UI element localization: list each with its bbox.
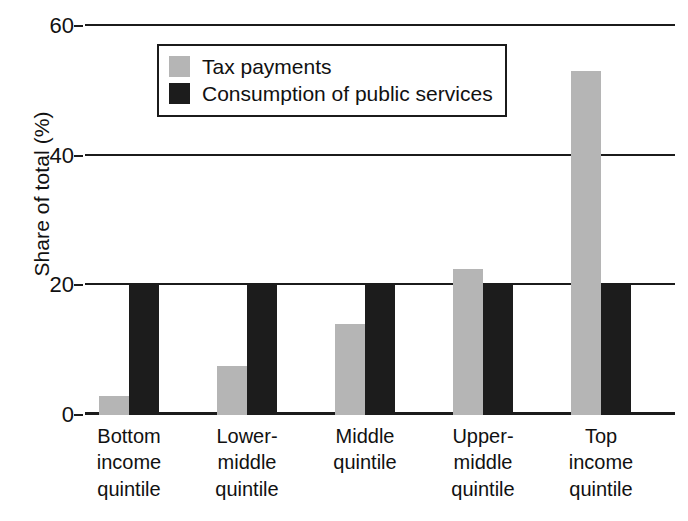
legend-item-label: Consumption of public services	[202, 83, 493, 104]
bar-tax-payments-2	[335, 324, 365, 415]
legend-item-label: Tax payments	[202, 56, 332, 77]
x-axis-label-4: Topincomequintile	[526, 423, 676, 502]
bar-tax-payments-0	[99, 396, 129, 415]
black-swatch	[169, 83, 190, 104]
bar-tax-payments-3	[453, 269, 483, 415]
x-axis-label-line: income	[526, 449, 676, 475]
bar-consumption-4	[601, 285, 631, 415]
y-tick-mark-20	[74, 284, 83, 286]
legend-item-0: Tax payments	[169, 53, 493, 80]
y-tick-mark-60	[74, 25, 83, 27]
y-tick-label-20: 20	[50, 274, 74, 296]
gray-swatch	[169, 56, 190, 77]
bar-consumption-2	[365, 285, 395, 415]
y-tick-mark-0	[74, 414, 83, 416]
x-axis-label-line: quintile	[526, 476, 676, 502]
bar-consumption-0	[129, 285, 159, 415]
legend-item-1: Consumption of public services	[169, 80, 493, 107]
gridline-60: 60	[85, 24, 675, 26]
x-axis-label-line: Top	[526, 423, 676, 449]
bar-consumption-3	[483, 285, 513, 415]
legend: Tax paymentsConsumption of public servic…	[157, 44, 507, 117]
bar-tax-payments-4	[571, 71, 601, 415]
x-axis-label-line: quintile	[172, 476, 322, 502]
bar-consumption-1	[247, 285, 277, 415]
y-tick-mark-40	[74, 155, 83, 157]
y-tick-label-40: 40	[50, 145, 74, 167]
bar-chart: Share of total (%) 0204060 Bottomincomeq…	[0, 0, 688, 521]
y-tick-label-60: 60	[50, 15, 74, 37]
bar-tax-payments-1	[217, 366, 247, 415]
